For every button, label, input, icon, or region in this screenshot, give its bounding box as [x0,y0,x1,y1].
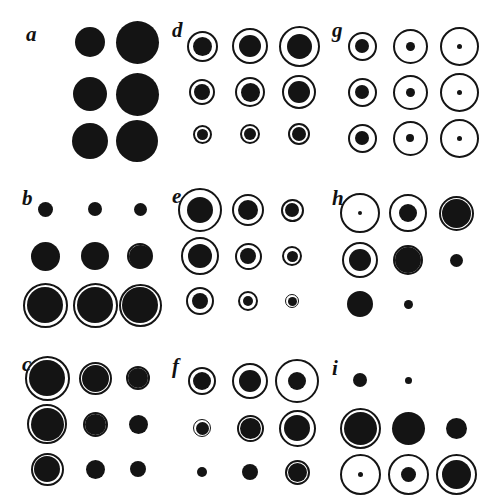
inner-dot [349,249,371,271]
inner-dot [344,412,377,445]
inner-dot [242,464,258,480]
inner-dot [446,418,467,439]
panel-label-f: f [172,356,179,377]
panel-i: i [320,336,480,504]
panel-f: f [160,336,320,504]
panel-label-d: d [172,20,183,41]
panel-label-a: a [26,24,37,45]
inner-dot [194,84,210,100]
inner-dot [288,297,297,306]
inner-dot [240,418,261,439]
inner-dot [406,134,414,142]
panel-label-i: i [332,358,338,379]
inner-dot [287,251,298,262]
inner-dot [73,77,107,111]
inner-dot [355,39,369,53]
inner-dot [442,199,471,228]
inner-dot [86,460,105,479]
inner-dot [238,200,258,220]
inner-dot [188,244,212,268]
inner-dot [401,467,416,482]
panel-d: d [160,0,320,168]
inner-dot [288,463,307,482]
inner-dot [128,368,148,388]
inner-dot [406,88,415,97]
inner-dot [34,456,60,482]
inner-dot [193,37,212,56]
inner-dot [38,202,53,217]
inner-dot [244,128,256,140]
inner-dot [288,81,310,103]
inner-dot [457,136,462,141]
inner-dot [31,408,64,441]
inner-dot [287,34,312,59]
inner-dot [130,461,146,477]
inner-dot [197,129,208,140]
inner-dot [292,127,306,141]
panel-e: e [160,168,320,336]
panel-a: a [0,0,160,168]
inner-dot [239,35,261,57]
inner-dot [241,83,260,102]
figure-canvas: abcdefghi [0,0,491,504]
inner-dot [355,85,369,99]
inner-dot [399,204,417,222]
panel-g: g [320,0,480,168]
inner-dot [82,365,109,392]
inner-dot [353,373,367,387]
inner-dot [405,377,412,384]
inner-dot [116,73,159,116]
inner-dot [240,248,256,264]
inner-dot [122,287,158,323]
inner-dot [197,467,207,477]
inner-dot [88,202,102,216]
panel-label-g: g [332,20,343,41]
inner-dot [77,287,113,323]
inner-dot [129,245,152,268]
inner-dot [358,211,362,215]
inner-dot [75,27,105,57]
inner-dot [406,42,415,51]
inner-dot [85,414,106,435]
inner-dot [31,242,60,271]
inner-dot [288,372,306,390]
inner-dot [284,415,310,441]
inner-dot [187,197,213,223]
inner-dot [239,370,261,392]
inner-dot [192,293,208,309]
inner-dot [392,412,425,445]
inner-dot [72,123,108,159]
inner-dot [457,90,462,95]
inner-dot [355,131,369,145]
inner-dot [193,372,211,390]
panel-label-b: b [22,188,33,209]
inner-dot [395,247,421,273]
inner-dot [348,292,372,316]
inner-dot [116,21,159,64]
inner-dot [450,254,463,267]
inner-dot [134,203,147,216]
panel-c: c [0,336,160,504]
inner-dot [358,472,363,477]
panel-b: b [0,168,160,336]
inner-dot [129,415,148,434]
inner-dot [404,300,413,309]
inner-dot [116,120,158,162]
inner-dot [243,296,253,306]
inner-dot [196,422,209,435]
panel-h: h [320,168,480,336]
inner-dot [285,203,299,217]
inner-dot [457,44,462,49]
inner-dot [442,460,471,489]
inner-dot [27,287,63,323]
inner-dot [81,242,109,270]
inner-dot [29,360,65,396]
